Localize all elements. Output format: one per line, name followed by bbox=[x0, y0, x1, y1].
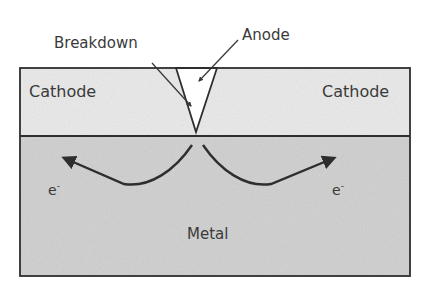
breakdown-label: Breakdown bbox=[54, 36, 138, 51]
cathode-label-right: Cathode bbox=[322, 84, 389, 100]
electron-symbol: e bbox=[332, 182, 341, 198]
electron-symbol: e bbox=[48, 182, 57, 198]
electron-label-right: e- bbox=[332, 182, 344, 197]
electron-charge: - bbox=[57, 181, 60, 191]
electron-charge: - bbox=[341, 181, 344, 191]
anode-label: Anode bbox=[242, 28, 290, 43]
cathode-label-left: Cathode bbox=[29, 84, 96, 100]
metal-label: Metal bbox=[187, 227, 228, 242]
electron-label-left: e- bbox=[48, 182, 60, 197]
